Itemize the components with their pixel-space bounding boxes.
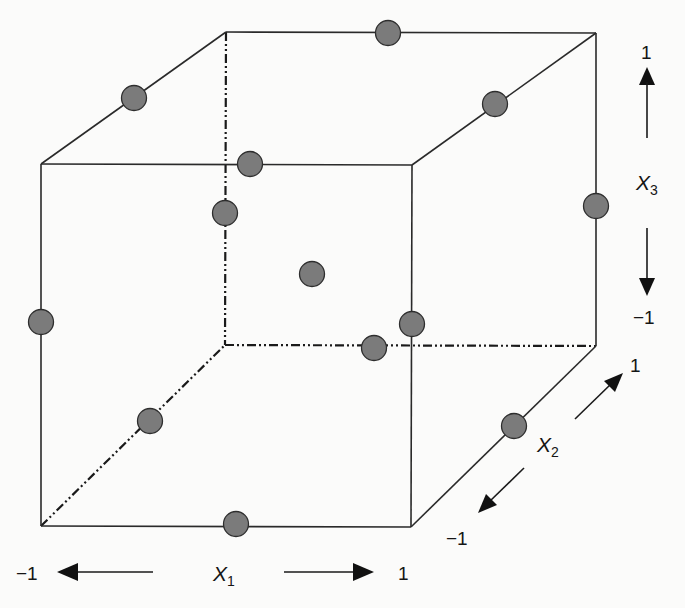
x2-up-arrow-head-icon bbox=[604, 373, 623, 392]
x3-axis-label: X3 bbox=[635, 171, 658, 198]
x2-high-label: 1 bbox=[630, 355, 641, 376]
design-points bbox=[29, 21, 609, 537]
x1-low-label: −1 bbox=[16, 563, 38, 584]
edge-bottom-right-diagonal bbox=[411, 346, 596, 527]
x1-right-arrow-head-icon bbox=[353, 563, 374, 581]
x2-down-arrow-shaft bbox=[489, 468, 524, 502]
design-point-top-back-edge bbox=[376, 21, 401, 46]
x2-low-label: −1 bbox=[446, 528, 468, 549]
x3-axis-indicator: 1 X3 −1 bbox=[633, 42, 658, 328]
x1-high-label: 1 bbox=[398, 563, 409, 584]
design-point-bottom-back-edge bbox=[362, 336, 387, 361]
x3-down-arrow-head-icon bbox=[639, 278, 655, 296]
design-point-back-right-vertical-edge bbox=[584, 194, 609, 219]
x3-low-label: −1 bbox=[633, 307, 655, 328]
edge-back-top bbox=[226, 32, 596, 33]
x2-axis-label: X2 bbox=[536, 433, 559, 460]
edge-front-right bbox=[411, 165, 412, 527]
hidden-edge-bottom-left-diagonal bbox=[41, 345, 225, 526]
hidden-edge-back-left-vertical bbox=[225, 32, 226, 345]
x1-axis-label: X1 bbox=[212, 562, 235, 589]
x1-axis-indicator: −1 X1 1 bbox=[16, 562, 409, 589]
x2-up-arrow-shaft bbox=[575, 383, 612, 419]
hidden-edge-back-bottom bbox=[225, 345, 596, 346]
x3-high-label: 1 bbox=[641, 42, 652, 63]
design-point-top-left-edge bbox=[122, 86, 147, 111]
design-point-top-front-edge bbox=[238, 152, 263, 177]
design-point-front-right-vertical-edge bbox=[400, 312, 425, 337]
design-point-bottom-front-edge bbox=[224, 512, 249, 537]
design-point-center bbox=[300, 262, 325, 287]
design-point-top-right-edge bbox=[483, 92, 508, 117]
design-point-front-left-vertical-edge bbox=[29, 310, 54, 335]
design-point-bottom-left-edge bbox=[138, 409, 163, 434]
x2-axis-indicator: 1 X2 −1 bbox=[446, 355, 641, 549]
design-point-bottom-right-edge bbox=[502, 414, 527, 439]
x1-left-arrow-head-icon bbox=[57, 563, 78, 581]
box-behnken-cube-diagram: −1 X1 1 1 X2 −1 1 X3 −1 bbox=[0, 0, 685, 608]
edge-front-top bbox=[41, 164, 412, 165]
design-point-back-left-vertical-edge bbox=[213, 201, 238, 226]
